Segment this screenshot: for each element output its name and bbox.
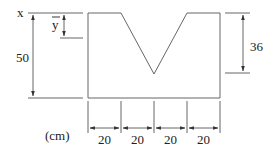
segment-label: 20 bbox=[197, 132, 210, 147]
segment-label: 20 bbox=[164, 132, 177, 147]
x-axis-label: x bbox=[17, 5, 24, 20]
segment-label: 20 bbox=[131, 132, 144, 147]
notch-depth-label: 36 bbox=[250, 39, 264, 54]
cross-section-diagram: x 50 y 36 20 20 20 20 (cm) bbox=[0, 0, 274, 155]
segment-label: 20 bbox=[98, 132, 111, 147]
unit-label: (cm) bbox=[45, 128, 70, 143]
section-outline bbox=[88, 13, 220, 98]
height-label: 50 bbox=[16, 50, 29, 65]
centroid-label: y bbox=[52, 17, 59, 32]
